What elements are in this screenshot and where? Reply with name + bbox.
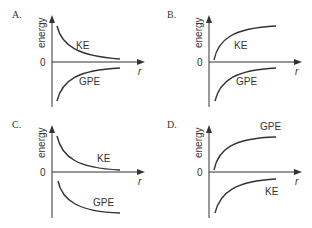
energy-graphs-figure: A. energy 0 r KE GPE B. energy 0 r KE GP… <box>0 0 312 228</box>
panel-c: C. energy 0 r KE GPE <box>12 119 145 218</box>
ke-curve <box>57 136 120 170</box>
x-axis-label: r <box>295 176 299 187</box>
y-axis-arrow-icon <box>49 125 55 133</box>
x-axis-label: r <box>138 66 142 77</box>
panel-b: B. energy 0 r KE GPE <box>167 9 302 107</box>
x-axis-label: r <box>295 66 299 77</box>
panel-a-label: A. <box>12 9 22 20</box>
x-axis-arrow-icon <box>137 169 145 175</box>
x-axis-arrow-icon <box>294 169 302 175</box>
x-axis-arrow-icon <box>294 59 302 65</box>
origin-label: 0 <box>197 167 203 178</box>
panel-b-label: B. <box>167 9 176 20</box>
y-axis-label: energy <box>193 127 204 158</box>
x-axis-label: r <box>138 176 142 187</box>
curve-label-upper: GPE <box>260 121 281 132</box>
curve-label-lower: GPE <box>79 76 100 87</box>
gpe-curve <box>214 137 276 170</box>
panel-c-label: C. <box>12 119 21 130</box>
curve-label-lower: GPE <box>93 197 114 208</box>
y-axis-arrow-icon <box>49 15 55 23</box>
curve-label-lower: KE <box>265 186 279 197</box>
curve-label-upper: KE <box>76 40 90 51</box>
origin-label: 0 <box>197 57 203 68</box>
curve-label-upper: KE <box>97 153 111 164</box>
panel-a: A. energy 0 r KE GPE <box>12 9 145 107</box>
panel-d-label: D. <box>167 119 177 130</box>
y-axis-arrow-icon <box>206 125 212 133</box>
x-axis-arrow-icon <box>137 59 145 65</box>
y-axis-arrow-icon <box>206 15 212 23</box>
curve-label-upper: KE <box>234 40 248 51</box>
y-axis-label: energy <box>36 17 47 48</box>
panel-d: D. energy 0 r GPE KE <box>167 119 302 218</box>
origin-label: 0 <box>40 57 46 68</box>
curve-label-lower: GPE <box>236 76 257 87</box>
origin-label: 0 <box>40 167 46 178</box>
y-axis-label: energy <box>193 17 204 48</box>
y-axis-label: energy <box>36 127 47 158</box>
